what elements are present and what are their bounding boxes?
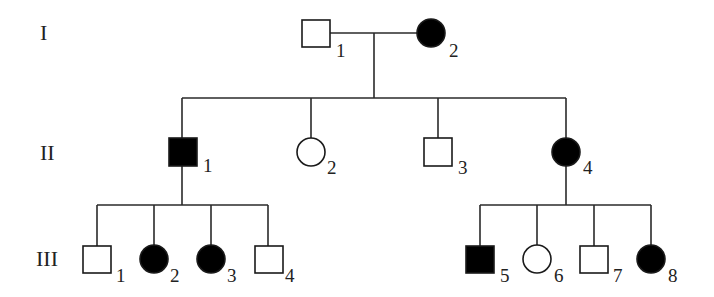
member-number-III-1: 1 [116, 265, 126, 286]
female-affected-I-2 [417, 19, 445, 47]
generation-label-I: I [40, 20, 47, 45]
member-number-II-2: 2 [327, 157, 337, 178]
member-number-III-8: 8 [668, 265, 678, 286]
member-number-I-2: 2 [449, 40, 459, 61]
member-number-III-7: 7 [613, 265, 623, 286]
member-number-I-1: 1 [336, 40, 346, 61]
male-affected-III-5 [466, 246, 494, 273]
member-number-III-4: 4 [285, 265, 295, 286]
pedigree-chart: I II III 1 2 1 2 3 4 [0, 0, 714, 297]
male-unaffected-III-7 [580, 246, 608, 273]
generation-label-III: III [36, 246, 58, 271]
female-unaffected-II-2 [297, 138, 325, 166]
member-number-II-4: 4 [583, 157, 593, 178]
generation-label-II: II [40, 140, 55, 165]
female-affected-III-3 [197, 245, 225, 273]
male-unaffected-III-1 [83, 246, 111, 273]
member-number-II-3: 3 [458, 157, 468, 178]
female-affected-II-4 [552, 138, 580, 166]
female-affected-III-8 [637, 245, 665, 273]
member-number-III-2: 2 [170, 265, 180, 286]
male-unaffected-I-1 [302, 20, 330, 47]
female-unaffected-III-6 [523, 245, 551, 273]
member-number-III-6: 6 [554, 265, 564, 286]
male-unaffected-II-3 [424, 138, 452, 166]
male-unaffected-III-4 [255, 246, 283, 273]
member-number-III-3: 3 [227, 265, 237, 286]
female-affected-III-2 [140, 245, 168, 273]
member-number-II-1: 1 [203, 155, 213, 176]
male-affected-II-1 [169, 138, 197, 166]
member-number-III-5: 5 [500, 265, 510, 286]
